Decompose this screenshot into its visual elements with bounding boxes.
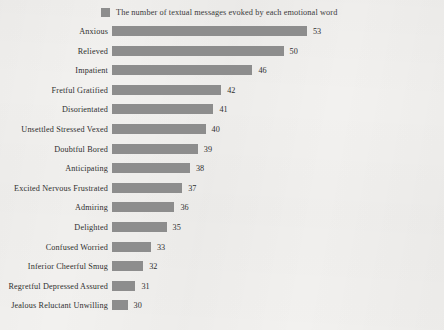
- value-label: 42: [227, 86, 235, 95]
- category-label: Regretful Depressed Assured: [0, 282, 108, 291]
- value-label: 30: [134, 301, 142, 310]
- value-label: 31: [141, 282, 149, 291]
- bar: [112, 202, 174, 212]
- category-label: Inferior Cheerful Smug: [0, 262, 108, 271]
- bar: [112, 242, 151, 252]
- chart-row: Unsettled Stressed Vexed40: [0, 124, 444, 136]
- value-label: 33: [157, 243, 165, 252]
- value-label: 36: [180, 203, 188, 212]
- category-label: Jealous Reluctant Unwilling: [0, 301, 108, 310]
- bar: [112, 222, 167, 232]
- bar: [112, 26, 307, 36]
- category-label: Anxious: [0, 27, 108, 36]
- bar-chart: The number of textual messages evoked by…: [0, 0, 444, 330]
- category-label: Doubtful Bored: [0, 145, 108, 154]
- chart-row: Regretful Depressed Assured31: [0, 281, 444, 293]
- bar: [112, 261, 143, 271]
- chart-row: Disorientated41: [0, 104, 444, 116]
- legend-label: The number of textual messages evoked by…: [116, 8, 337, 17]
- bar: [112, 183, 182, 193]
- category-label: Disorientated: [0, 105, 108, 114]
- value-label: 53: [313, 27, 321, 36]
- category-label: Unsettled Stressed Vexed: [0, 125, 108, 134]
- value-label: 37: [188, 184, 196, 193]
- bar: [112, 163, 190, 173]
- value-label: 46: [258, 66, 266, 75]
- category-label: Impatient: [0, 66, 108, 75]
- category-label: Delighted: [0, 223, 108, 232]
- category-label: Excited Nervous Frustrated: [0, 184, 108, 193]
- chart-row: Relieved50: [0, 46, 444, 58]
- chart-row: Inferior Cheerful Smug32: [0, 261, 444, 273]
- chart-row: Impatient46: [0, 65, 444, 77]
- chart-row: Anxious53: [0, 26, 444, 38]
- category-label: Admiring: [0, 203, 108, 212]
- bar: [112, 85, 221, 95]
- category-label: Relieved: [0, 47, 108, 56]
- value-label: 41: [219, 105, 227, 114]
- category-label: Fretful Gratified: [0, 86, 108, 95]
- chart-row: Anticipating38: [0, 163, 444, 175]
- value-label: 32: [149, 262, 157, 271]
- bar: [112, 124, 206, 134]
- chart-legend: The number of textual messages evoked by…: [101, 8, 337, 17]
- value-label: 35: [173, 223, 181, 232]
- value-label: 38: [196, 164, 204, 173]
- chart-row: Jealous Reluctant Unwilling30: [0, 300, 444, 312]
- value-label: 39: [204, 145, 212, 154]
- chart-row: Delighted35: [0, 222, 444, 234]
- value-label: 50: [290, 47, 298, 56]
- bar: [112, 65, 252, 75]
- plot-area: Anxious53Relieved50Impatient46Fretful Gr…: [0, 24, 444, 330]
- chart-row: Doubtful Bored39: [0, 144, 444, 156]
- chart-row: Confused Worried33: [0, 242, 444, 254]
- value-label: 40: [212, 125, 220, 134]
- bar: [112, 300, 128, 310]
- category-label: Confused Worried: [0, 243, 108, 252]
- chart-row: Excited Nervous Frustrated37: [0, 183, 444, 195]
- bar: [112, 46, 284, 56]
- chart-row: Admiring36: [0, 202, 444, 214]
- bar: [112, 144, 198, 154]
- legend-swatch-icon: [101, 8, 110, 17]
- bar: [112, 281, 135, 291]
- bar: [112, 104, 213, 114]
- category-label: Anticipating: [0, 164, 108, 173]
- chart-row: Fretful Gratified42: [0, 85, 444, 97]
